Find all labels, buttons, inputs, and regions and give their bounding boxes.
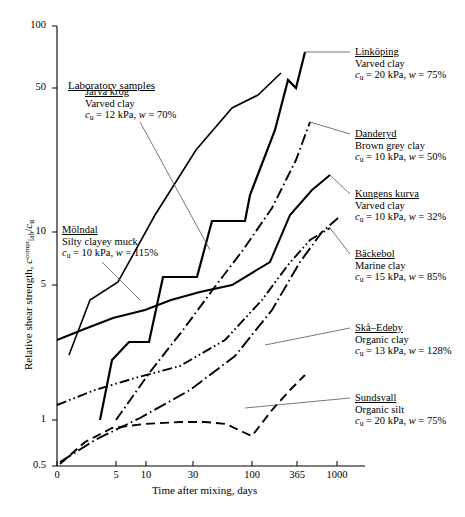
x-tick-label-365: 365 xyxy=(277,469,317,480)
annotation-danderyd-soil: Brown grey clay xyxy=(355,140,446,152)
x-tick-label-100: 100 xyxy=(232,469,272,480)
y-axis-title-div: / xyxy=(22,229,34,232)
leader-line-molndal xyxy=(102,262,140,300)
annotation-backebol-soil: Marine clay xyxy=(355,260,446,272)
annotation-linkoping-soil: Varved clay xyxy=(355,58,446,70)
y-axis-title: Relative shear strength, ccomprlab/cu xyxy=(22,220,36,370)
x-tick-label-0: 0 xyxy=(37,469,77,480)
y-axis-title-sym: c xyxy=(22,259,34,264)
annotation-backebol: BäckebolMarine claycu = 15 kPa, w = 85% xyxy=(355,248,446,286)
y-axis-title-sub: lab xyxy=(27,232,36,241)
annotation-jarva-cu: 12 kPa xyxy=(105,109,134,120)
annotation-linkoping: LinköpingVarved claycu = 20 kPa, w = 75% xyxy=(355,46,446,84)
x-axis-title: Time after mixing, days xyxy=(152,484,257,496)
annotation-sundsvall-soil: Organic silt xyxy=(355,404,446,416)
annotation-ska-cu: 13 kPa xyxy=(375,345,404,356)
annotation-backebol-name: Bäckebol xyxy=(355,248,446,260)
annotation-molndal-w: 115% xyxy=(134,247,158,258)
annotation-kungens: Kungens kurvaVarved claycu = 10 kPa, w =… xyxy=(355,188,446,226)
y-tick-label-50: 50 xyxy=(14,81,46,92)
x-tick-label-10: 10 xyxy=(126,469,166,480)
annotation-kungens-soil: Varved clay xyxy=(355,200,446,212)
annotation-sundsvall-props: cu = 20 kPa, w = 75% xyxy=(355,415,446,430)
y-axis-title-sym2: c xyxy=(22,224,34,229)
chart-figure: 1005010510.5 0510301003651000 Time after… xyxy=(0,0,465,517)
annotation-linkoping-name: Linköping xyxy=(355,46,446,58)
annotation-ska-w: 128% xyxy=(427,345,452,356)
leader-line-ska xyxy=(265,328,350,345)
y-axis-title-sup: compr xyxy=(23,241,31,259)
annotation-sundsvall-cu: 20 kPa xyxy=(375,415,404,426)
annotation-backebol-w: 85% xyxy=(427,271,446,282)
annotation-jarva-soil: Varved clay xyxy=(85,98,176,110)
leader-line-sundsvall xyxy=(245,398,350,408)
annotation-jarva: Järva krogVarved claycu = 12 kPa, w = 70… xyxy=(85,86,176,124)
annotation-kungens-w: 32% xyxy=(427,211,446,222)
annotation-backebol-props: cu = 15 kPa, w = 85% xyxy=(355,271,446,286)
annotation-ska: Skå–EdebyOrganic claycu = 13 kPa, w = 12… xyxy=(355,322,451,360)
annotation-linkoping-w: 75% xyxy=(427,69,446,80)
annotation-linkoping-cu: 20 kPa xyxy=(375,69,404,80)
annotation-sundsvall-w: 75% xyxy=(427,415,446,426)
y-tick-label-100: 100 xyxy=(14,19,46,30)
x-tick-label-1000: 1000 xyxy=(317,469,357,480)
annotation-molndal: Mölndal Silty clayey muck cu = 10 kPa, w… xyxy=(62,224,158,262)
annotation-ska-soil: Organic clay xyxy=(355,334,451,346)
leader-line-backebol xyxy=(330,228,350,254)
annotation-danderyd-name: Danderyd xyxy=(355,128,446,140)
annotation-linkoping-props: cu = 20 kPa, w = 75% xyxy=(355,69,446,84)
annotation-kungens-props: cu = 10 kPa, w = 32% xyxy=(355,211,446,226)
annotation-backebol-cu: 15 kPa xyxy=(375,271,404,282)
annotation-jarva-props: cu = 12 kPa, w = 70% xyxy=(85,109,176,124)
annotation-molndal-cu: 10 kPa xyxy=(82,247,111,258)
annotation-danderyd-w: 50% xyxy=(427,151,446,162)
annotation-sundsvall-name: Sundsvall xyxy=(355,392,446,404)
series-line-sundsvall xyxy=(60,375,305,464)
annotation-kungens-name: Kungens kurva xyxy=(355,188,446,200)
annotation-danderyd: DanderydBrown grey claycu = 10 kPa, w = … xyxy=(355,128,446,166)
annotation-kungens-cu: 10 kPa xyxy=(375,211,404,222)
leader-line-danderyd xyxy=(310,122,350,134)
annotation-sundsvall: SundsvallOrganic siltcu = 20 kPa, w = 75… xyxy=(355,392,446,430)
annotation-molndal-name: Mölndal xyxy=(62,224,158,236)
annotation-jarva-w: 70% xyxy=(157,109,176,120)
annotation-danderyd-props: cu = 10 kPa, w = 50% xyxy=(355,151,446,166)
leader-line-kungens xyxy=(330,175,350,194)
y-axis-title-prefix: Relative shear strength, xyxy=(22,264,34,370)
y-axis-title-sub2: u xyxy=(27,220,36,224)
annotation-molndal-soil: Silty clayey muck xyxy=(62,236,158,248)
annotation-ska-props: cu = 13 kPa, w = 128% xyxy=(355,345,451,360)
y-tick-label-1: 1 xyxy=(14,413,46,424)
annotation-ska-name: Skå–Edeby xyxy=(355,322,451,334)
x-tick-label-30: 30 xyxy=(173,469,213,480)
annotation-molndal-props: cu = 10 kPa, w = 115% xyxy=(62,247,158,262)
annotation-danderyd-cu: 10 kPa xyxy=(375,151,404,162)
annotation-jarva-name: Järva krog xyxy=(85,86,176,98)
